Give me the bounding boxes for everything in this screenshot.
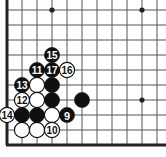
stone-b-52-85 [44, 77, 59, 92]
stone-move-number: 11 [32, 65, 43, 76]
stone-w-37-130 [29, 122, 44, 137]
stone-17: 17 [44, 62, 59, 77]
stone-move-number: 15 [46, 50, 58, 61]
stone-13: 13 [14, 77, 29, 92]
star-point [49, 7, 54, 12]
stone-b-22-115 [14, 107, 29, 122]
stone-w-37-100 [29, 92, 44, 107]
black-stone [74, 92, 89, 107]
white-stone [14, 122, 29, 137]
stone-15: 15 [44, 47, 59, 62]
go-board-canvas: 15111716131214910 [0, 0, 166, 157]
stone-w-52-115 [44, 107, 59, 122]
black-stone [44, 92, 59, 107]
white-stone [44, 107, 59, 122]
stone-move-number: 14 [1, 110, 13, 121]
stone-9: 9 [59, 107, 74, 122]
stone-14: 14 [0, 107, 15, 122]
stone-w-37-85 [29, 77, 44, 92]
stone-w-22-130 [14, 122, 29, 137]
stone-move-number: 10 [46, 125, 58, 136]
white-stone [29, 122, 44, 137]
stone-move-number: 9 [64, 110, 70, 122]
stone-move-number: 13 [16, 80, 28, 91]
stone-b-52-100 [44, 92, 59, 107]
stone-move-number: 12 [16, 95, 28, 106]
stone-16: 16 [59, 62, 74, 77]
stone-10: 10 [44, 122, 59, 137]
stone-move-number: 17 [46, 65, 58, 76]
white-stone [29, 77, 44, 92]
stone-11: 11 [29, 62, 44, 77]
stones-layer: 15111716131214910 [0, 47, 90, 137]
star-point [139, 7, 144, 12]
stone-12: 12 [14, 92, 29, 107]
star-point [139, 97, 144, 102]
stone-b-37-115 [29, 107, 44, 122]
white-stone [29, 92, 44, 107]
black-stone [29, 107, 44, 122]
stone-move-number: 16 [61, 65, 73, 76]
go-board-diagram: 15111716131214910 [0, 0, 166, 157]
black-stone [44, 77, 59, 92]
stone-b-82-100 [74, 92, 89, 107]
black-stone [14, 107, 29, 122]
